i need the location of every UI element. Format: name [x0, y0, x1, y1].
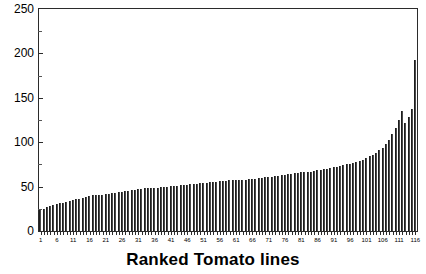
x-tick — [386, 232, 387, 235]
x-tick — [409, 232, 410, 235]
bar — [111, 193, 113, 231]
x-tick — [373, 232, 374, 235]
bar — [245, 180, 247, 232]
bar — [215, 182, 217, 231]
x-tick-label: 31 — [135, 236, 142, 244]
bar — [212, 182, 214, 231]
x-tick — [415, 232, 416, 235]
x-tick — [187, 232, 188, 235]
x-tick — [393, 232, 394, 235]
x-tick-label: 21 — [102, 236, 109, 244]
x-tick — [265, 232, 266, 235]
x-tick — [380, 232, 381, 235]
bar — [274, 176, 276, 231]
bar — [411, 109, 413, 231]
bar — [300, 172, 302, 231]
x-tick — [376, 232, 377, 235]
x-tick — [194, 232, 195, 235]
x-tick-label: 116 — [411, 236, 421, 244]
bar — [59, 203, 61, 231]
x-tick-label: 46 — [184, 236, 191, 244]
bar — [157, 188, 159, 232]
bar — [49, 206, 51, 231]
x-tick — [80, 232, 81, 235]
bar — [173, 186, 175, 231]
bar — [186, 185, 188, 231]
bar — [241, 180, 243, 232]
bar — [313, 171, 315, 231]
y-tick-label: 200 — [14, 47, 34, 59]
x-tick — [90, 232, 91, 235]
x-tick — [168, 232, 169, 235]
bar — [153, 188, 155, 232]
y-tick-label: 250 — [14, 3, 34, 15]
bar — [147, 188, 149, 231]
x-tick — [148, 232, 149, 235]
bar — [75, 199, 77, 231]
x-tick-label: 41 — [168, 236, 175, 244]
bar — [277, 176, 279, 231]
bar — [382, 148, 384, 231]
x-tick — [298, 232, 299, 235]
x-tick — [132, 232, 133, 235]
bar — [297, 173, 299, 231]
x-tick — [70, 232, 71, 235]
bar-series — [39, 9, 417, 231]
bar — [43, 209, 45, 231]
x-tick — [164, 232, 165, 235]
bar — [287, 174, 289, 231]
bar — [333, 167, 335, 231]
bar — [352, 163, 354, 231]
x-tick — [301, 232, 302, 235]
x-tick — [279, 232, 280, 235]
bar — [365, 158, 367, 231]
bar — [206, 183, 208, 231]
bar — [235, 180, 237, 231]
x-tick — [99, 232, 100, 235]
x-tick — [288, 232, 289, 235]
bar — [56, 204, 58, 231]
x-tick — [83, 232, 84, 235]
x-tick — [158, 232, 159, 235]
x-tick — [200, 232, 201, 235]
x-tick — [252, 232, 253, 235]
x-tick-label: 16 — [86, 236, 93, 244]
bar — [398, 120, 400, 231]
x-tick-label: 86 — [314, 236, 321, 244]
x-tick — [383, 232, 384, 235]
x-tick — [112, 232, 113, 235]
x-tick-label: 26 — [119, 236, 126, 244]
bar — [238, 180, 240, 232]
x-tick — [331, 232, 332, 235]
bar — [209, 182, 211, 231]
bar — [166, 187, 168, 231]
x-tick — [305, 232, 306, 235]
x-tick-label: 111 — [395, 236, 404, 244]
bar — [349, 164, 351, 231]
bar — [310, 172, 312, 231]
bar — [189, 184, 191, 231]
x-tick — [308, 232, 309, 235]
x-tick — [259, 232, 260, 235]
bar — [414, 60, 416, 231]
x-tick — [249, 232, 250, 235]
x-tick-label: 101 — [361, 236, 371, 244]
x-tick — [311, 232, 312, 235]
bar — [391, 134, 393, 231]
x-tick — [197, 232, 198, 235]
x-tick — [125, 232, 126, 235]
bar — [225, 181, 227, 231]
bar — [264, 177, 266, 231]
bar — [375, 153, 377, 231]
bar — [342, 165, 344, 231]
x-tick — [272, 232, 273, 235]
bar — [294, 173, 296, 231]
x-tick — [109, 232, 110, 235]
x-tick — [340, 232, 341, 235]
y-tick-label: 0 — [27, 225, 34, 237]
x-tick — [233, 232, 234, 235]
bar — [144, 188, 146, 231]
bar — [85, 197, 87, 231]
bar — [95, 195, 97, 231]
bar — [131, 190, 133, 231]
